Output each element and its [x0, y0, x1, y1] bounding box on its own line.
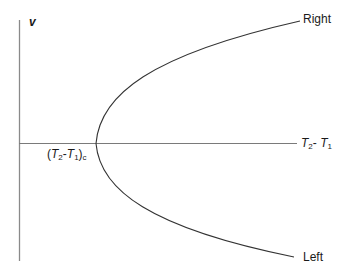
upper-branch-curve: [96, 21, 300, 144]
lower-branch-curve: [96, 144, 294, 258]
bifurcation-diagram: [0, 0, 341, 273]
right-branch-label: Right: [303, 13, 331, 25]
critical-point-label: (T2-T1)c: [47, 148, 87, 162]
y-axis-label: v: [29, 16, 36, 28]
x-axis-label: T2- T1: [301, 137, 332, 151]
left-branch-label: Left: [303, 251, 323, 263]
